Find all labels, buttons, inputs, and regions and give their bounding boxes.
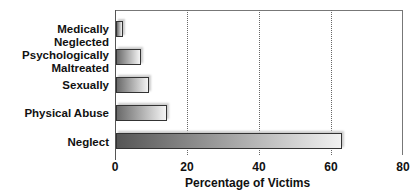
chart: Medically Neglected Psychologically Malt… — [0, 0, 412, 192]
label-line-1: Psychologically — [22, 49, 109, 62]
category-label-sexually: Sexually — [62, 79, 109, 92]
bar-sexually — [116, 77, 149, 93]
category-label-neglect: Neglect — [67, 136, 109, 149]
x-tick-60: 60 — [324, 160, 337, 174]
category-label-physical-abuse: Physical Abuse — [24, 107, 109, 120]
x-tick-80: 80 — [396, 160, 409, 174]
category-label-medically-neglected: Medically Neglected — [0, 23, 109, 49]
label-line-2: Maltreated — [22, 62, 109, 75]
category-label-psychologically-maltreated: Psychologically Maltreated — [22, 49, 109, 75]
x-tick-20: 20 — [180, 160, 193, 174]
bar-physical-abuse — [116, 105, 167, 121]
bar-neglect — [116, 133, 342, 149]
bar-medically-neglected — [116, 21, 123, 37]
x-tick-0: 0 — [112, 160, 119, 174]
x-tick-40: 40 — [252, 160, 265, 174]
x-axis-title: Percentage of Victims — [185, 176, 310, 190]
bar-psychologically-maltreated — [116, 49, 141, 65]
